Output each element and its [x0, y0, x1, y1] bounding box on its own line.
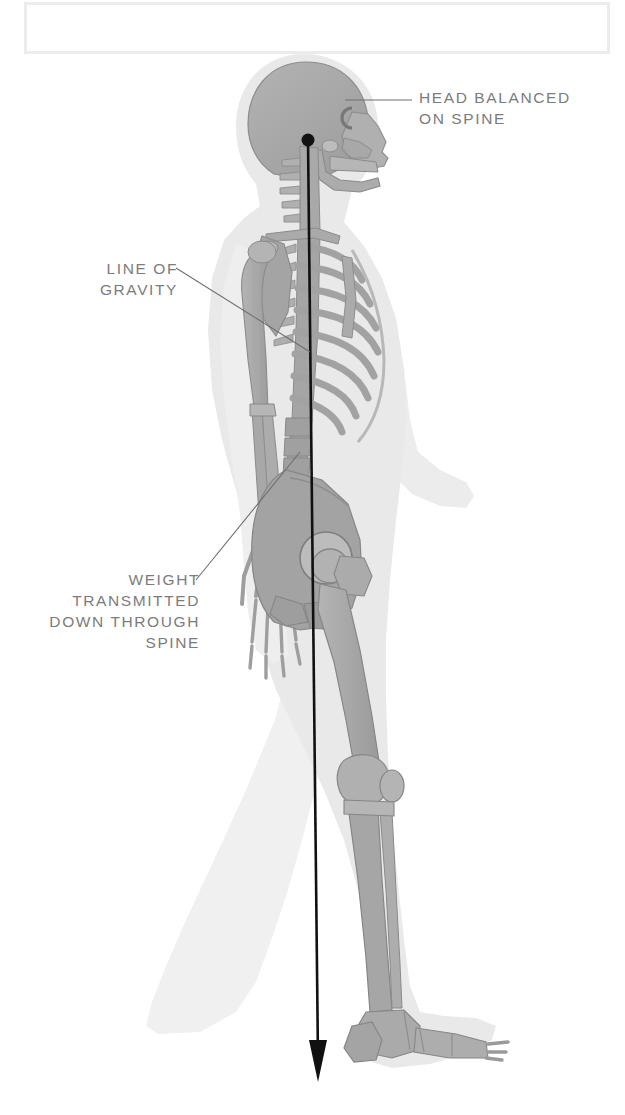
skeleton-figure: [0, 0, 625, 1115]
line-of-gravity-arrowhead: [309, 1040, 327, 1082]
humeral-head: [248, 241, 276, 263]
callout-head-balanced: HEAD BALANCED ON SPINE: [419, 87, 571, 129]
toe-phalanges: [486, 1042, 508, 1060]
condyle: [322, 140, 338, 152]
callout-weight-transmitted: WEIGHT TRANSMITTED DOWN THROUGH SPINE: [8, 569, 200, 653]
patella: [380, 770, 404, 802]
callout-line-of-gravity: LINE OF GRAVITY: [18, 258, 178, 300]
elbow-joint: [250, 404, 276, 416]
tibial-plateau: [344, 800, 394, 816]
diagram-page: HEAD BALANCED ON SPINE LINE OF GRAVITY W…: [0, 0, 625, 1115]
